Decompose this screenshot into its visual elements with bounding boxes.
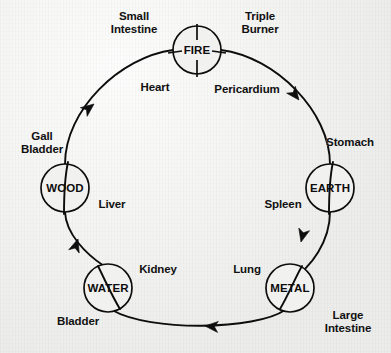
arc-fire-to-earth: [221, 50, 330, 164]
arc-water-to-wood: [65, 212, 104, 266]
organ-label-lung: Lung: [233, 263, 261, 276]
arc-metal-to-water: [112, 310, 285, 326]
five-element-cycle-diagram: FIRE EARTH METAL WATER WOOD Small Intest…: [0, 0, 391, 353]
arrowhead-earth-to-metal: [296, 228, 310, 243]
organ-label-kidney: Kidney: [139, 263, 177, 276]
organ-label-spleen: Spleen: [264, 198, 301, 211]
organ-label-gall-bladder: Gall Bladder: [21, 130, 63, 156]
organ-label-pericardium: Pericardium: [214, 83, 279, 96]
arc-wood-to-fire: [65, 50, 173, 164]
organ-label-heart: Heart: [141, 81, 170, 94]
organ-label-large-intestine: Large Intestine: [325, 309, 371, 335]
organ-label-small-intestine: Small Intestine: [111, 10, 157, 36]
organ-label-stomach: Stomach: [326, 136, 374, 149]
organ-label-bladder: Bladder: [57, 315, 99, 328]
organ-label-liver: Liver: [99, 198, 126, 211]
cycle-svg-canvas: [0, 0, 391, 353]
arrowhead-metal-to-water: [205, 321, 219, 333]
organ-label-triple-burner: Triple Burner: [241, 10, 278, 36]
